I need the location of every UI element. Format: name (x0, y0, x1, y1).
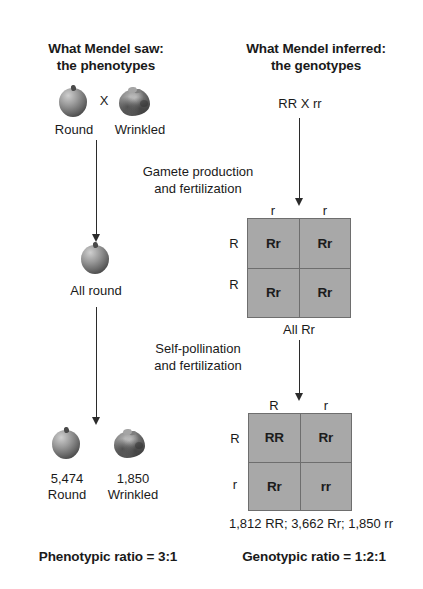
punnett2-cell-1-1: rr (301, 463, 352, 511)
f2-wrinkled-count: 1,850 (97, 471, 169, 487)
right-column-title-line1: What Mendel inferred: (216, 40, 416, 57)
parent-wrinkled-label: Wrinkled (104, 122, 176, 138)
f1-round-pea (79, 243, 113, 277)
step1-line2: and fertilization (118, 180, 278, 197)
punnett1-cell-1-1: Rr (300, 269, 351, 318)
punnett1-cell-0-0: Rr (248, 219, 299, 268)
punnett2-cell-0-1: Rr (301, 414, 352, 462)
f2-round-count: 5,474 (33, 471, 101, 487)
f2-wrinkled-pea (113, 428, 147, 462)
step1-label: Gamete production and fertilization (118, 163, 278, 197)
left-arrow-1-head (92, 234, 100, 242)
punnett1-row-header-1: R (226, 277, 242, 292)
step2-label: Self-pollination and fertilization (118, 340, 278, 374)
punnett2-row-header-0: R (227, 431, 243, 446)
punnett2-col-header-1: r (300, 398, 352, 413)
punnett1-row-header-0: R (226, 236, 242, 251)
round-pea-icon (79, 243, 113, 277)
wrinkled-pea-icon (118, 86, 152, 120)
punnett2-cell-1-0: Rr (249, 463, 300, 511)
punnett1-col-header-0: r (247, 203, 299, 218)
right-column-title-line2: the genotypes (216, 57, 416, 74)
punnett1-cell-0-1: Rr (300, 219, 351, 268)
left-column-title-line2: the phenotypes (8, 57, 204, 74)
phenotypic-ratio: Phenotypic ratio = 3:1 (10, 549, 206, 564)
left-arrow-1-line (96, 140, 97, 236)
step2-line1: Self-pollination (118, 340, 278, 357)
step2-line2: and fertilization (118, 357, 278, 374)
punnett-square-1: Rr Rr Rr Rr (247, 218, 351, 318)
wrinkled-pea-icon (113, 428, 147, 462)
left-arrow-2-line (96, 307, 97, 419)
punnett1-cell-1-0: Rr (248, 269, 299, 318)
f2-wrinkled-label: Wrinkled (97, 487, 169, 503)
punnett-square-2: RR Rr Rr rr (248, 413, 352, 511)
round-pea-icon (50, 428, 84, 462)
left-column-title-line1: What Mendel saw: (8, 40, 204, 57)
round-pea-icon (57, 86, 91, 120)
f1-genotype-label: All Rr (249, 322, 349, 338)
parent-genotype-cross: RR X rr (240, 96, 360, 112)
punnett2-cell-0-0: RR (249, 414, 300, 462)
left-arrow-2-head (92, 417, 100, 425)
f2-genotype-counts: 1,812 RR; 3,662 Rr; 1,850 rr (200, 516, 422, 532)
right-arrow-1-line (299, 118, 300, 200)
f2-round-pea (50, 428, 84, 462)
parent-round-pea (57, 86, 91, 120)
f2-round-label: Round (33, 487, 101, 503)
punnett2-row-header-1: r (227, 477, 243, 492)
right-column-title: What Mendel inferred: the genotypes (216, 40, 416, 74)
parent-round-label: Round (40, 122, 108, 138)
step1-line1: Gamete production (118, 163, 278, 180)
punnett2-col-header-0: R (248, 398, 300, 413)
f1-phenotype-label: All round (46, 283, 146, 299)
genotypic-ratio: Genotypic ratio = 1:2:1 (214, 549, 414, 564)
punnett1-col-header-1: r (299, 203, 351, 218)
parent-wrinkled-pea (118, 86, 152, 120)
right-arrow-2-line (299, 340, 300, 395)
left-column-title: What Mendel saw: the phenotypes (8, 40, 204, 74)
parent-cross-symbol: X (96, 93, 112, 109)
